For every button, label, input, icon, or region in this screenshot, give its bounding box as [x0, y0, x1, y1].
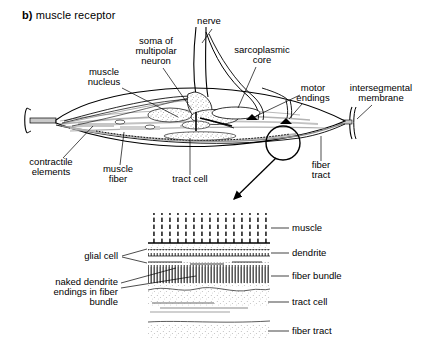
left-attachment: [25, 108, 56, 133]
svg-text:tract: tract: [312, 169, 331, 180]
svg-text:core: core: [253, 54, 271, 65]
svg-text:neuron: neuron: [141, 55, 171, 66]
label-inset-tract-cell: tract cell: [292, 296, 327, 307]
label-inset-dendrite: dendrite: [292, 247, 326, 258]
band-tract-cell: [148, 288, 270, 312]
label-muscle-fiber: muscle fiber: [103, 163, 133, 184]
label-soma-of-multipolar-neuron: soma of multipolar neuron: [135, 35, 176, 66]
label-glial-cell: glial cell: [84, 250, 118, 261]
svg-text:nucleus: nucleus: [88, 76, 121, 87]
label-muscle-nucleus: muscle nucleus: [88, 66, 121, 87]
svg-text:bundle: bundle: [89, 296, 118, 307]
label-inset-fiber-tract: fiber tract: [292, 325, 332, 336]
muscle-receptor-figure: nerve soma of multipolar neuron sarcopla…: [0, 0, 429, 344]
band-muscle: [148, 213, 270, 243]
inset-diagram: glial cell naked dendrite endings in fib…: [54, 213, 342, 339]
svg-text:endings: endings: [296, 92, 330, 103]
upper-diagram: nerve soma of multipolar neuron sarcopla…: [25, 15, 412, 199]
label-nerve: nerve: [197, 15, 221, 26]
label-inset-muscle: muscle: [292, 222, 322, 233]
band-dendrite: [148, 244, 270, 256]
label-naked-dendrite-endings: naked dendrite endings in fiber bundle: [54, 276, 118, 307]
label-sarcoplasmic-core: sarcoplasmic core: [234, 44, 290, 65]
label-contractile-elements: contractile elements: [29, 156, 72, 177]
svg-text:elements: elements: [32, 166, 71, 177]
label-fiber-tract: fiber tract: [312, 159, 331, 180]
magnification-arrow: [234, 158, 276, 199]
svg-text:membrane: membrane: [358, 92, 403, 103]
band-fiber-tract: [148, 321, 270, 339]
svg-text:fiber: fiber: [109, 173, 127, 184]
label-inset-fiber-bundle: fiber bundle: [292, 270, 342, 281]
band-fiber-bundle: [148, 262, 270, 287]
label-intersegmental-membrane: intersegmental membrane: [350, 82, 412, 103]
label-motor-endings: motor endings: [296, 82, 330, 103]
